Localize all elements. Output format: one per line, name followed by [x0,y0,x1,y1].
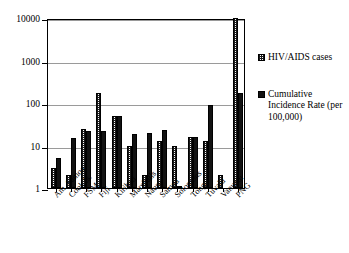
bar-group [139,20,154,188]
legend-label: HIV/AIDS cases [268,52,332,63]
plot-area: 110100100010000 [47,19,245,189]
bar [208,105,213,188]
bar-group [63,20,78,188]
y-axis-tick-label: 10000 [16,15,40,25]
legend-label: Cumulative Incidence Rate (per 100,000) [268,89,346,123]
bar-group [155,20,170,188]
y-axis-tick-label: 1 [35,185,40,195]
bar-group [200,20,215,188]
bar [101,131,106,188]
bar-group [231,20,246,188]
bar-group [109,20,124,188]
bar-group [78,20,93,188]
chart-legend: HIV/AIDS casesCumulative Incidence Rate … [258,52,346,149]
legend-swatch [258,91,265,98]
legend-entry: HIV/AIDS cases [258,52,346,63]
y-axis-tick-label: 1000 [21,58,40,68]
bar [117,116,122,188]
bar-group [94,20,109,188]
legend-entry: Cumulative Incidence Rate (per 100,000) [258,89,346,123]
bar-group [216,20,231,188]
bar-group [185,20,200,188]
chart-figure: 110100100010000 Am. SamoaCook Is.FSMFiji… [0,0,349,253]
x-axis-labels: Am. SamoaCook Is.FSMFijiKiribatiMarshall… [47,190,245,252]
bar-series-container [48,20,244,188]
legend-swatch [258,54,265,61]
bar-group [124,20,139,188]
bar-group [48,20,63,188]
y-axis-tick-label: 100 [26,100,40,110]
y-axis-tick-label: 10 [31,143,41,153]
bar-group [170,20,185,188]
bar [162,130,167,188]
